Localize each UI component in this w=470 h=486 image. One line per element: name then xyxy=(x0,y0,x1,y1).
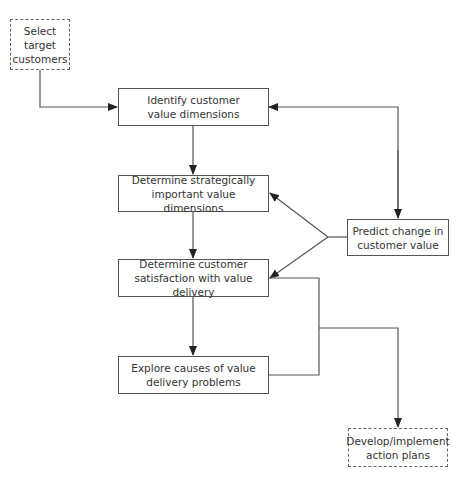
node-label: Predict change in customer value xyxy=(352,224,443,252)
edge-select-to-identify xyxy=(40,70,117,107)
node-label: Determine customer satisfaction with val… xyxy=(123,257,264,299)
node-develop-action-plans: Develop/implement action plans xyxy=(348,428,448,467)
edge-satisfaction-loop xyxy=(268,278,319,375)
node-determine-satisfaction: Determine customer satisfaction with val… xyxy=(118,259,269,297)
node-identify-value-dimensions: Identify customer value dimensions xyxy=(118,88,269,126)
edge-to-develop xyxy=(319,328,398,427)
node-explore-causes: Explore causes of value delivery problem… xyxy=(118,356,269,394)
node-label: Identify customer value dimensions xyxy=(147,93,239,121)
node-label: Explore causes of value delivery problem… xyxy=(131,361,255,389)
node-label: Select target customers xyxy=(13,24,68,66)
node-label: Determine strategically important value … xyxy=(123,173,264,215)
node-determine-strategic-dimensions: Determine strategically important value … xyxy=(118,175,269,212)
edge-predict-to-identify xyxy=(269,107,398,218)
edge-predict-to-strategic xyxy=(270,193,328,237)
edge-predict-to-satisfaction xyxy=(270,237,328,278)
node-select-target-customers: Select target customers xyxy=(10,19,70,70)
node-label: Develop/implement action plans xyxy=(346,434,449,462)
node-predict-change: Predict change in customer value xyxy=(347,219,449,256)
